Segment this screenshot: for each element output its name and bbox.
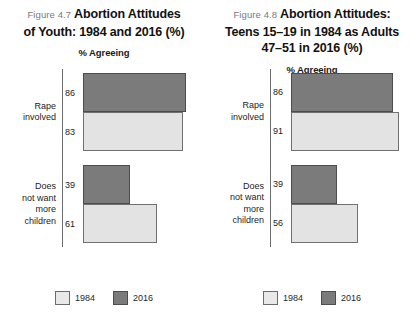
bar-row-2016: 39 xyxy=(271,165,337,204)
figure-4-8-category-label-no-more-children: Does not want more children xyxy=(208,165,264,243)
legend-swatch-2016-icon xyxy=(113,291,128,305)
figure-4-7-title-line1: Abortion Attitudes xyxy=(74,7,181,21)
bar-2016-no-more-children xyxy=(83,165,130,204)
bar-2016-rape-involved xyxy=(83,73,186,112)
category-line-1: Does xyxy=(35,181,56,193)
bar-row-1984: 61 xyxy=(63,204,157,243)
bar-1984-no-more-children xyxy=(83,204,157,243)
bar-value-1984: 56 xyxy=(271,218,291,228)
bar-2016-rape-involved xyxy=(291,73,393,112)
legend-item-1984: 1984 xyxy=(55,291,95,305)
category-line-1: Rape xyxy=(34,101,56,113)
figure-4-8-title-line3: 47–51 in 2016 (%) xyxy=(262,41,363,55)
legend-label-2016: 2016 xyxy=(341,293,361,303)
bar-row-1984: 83 xyxy=(63,112,183,151)
category-line-2: not want xyxy=(22,193,56,205)
bar-row-2016: 86 xyxy=(271,73,393,112)
legend-item-1984: 1984 xyxy=(263,291,303,305)
category-line-3: more xyxy=(35,204,56,216)
category-line-1: Does xyxy=(243,181,264,193)
category-line-1: Rape xyxy=(242,100,264,112)
legend-item-2016: 2016 xyxy=(321,291,361,305)
figure-4-7-category-label-rape-involved: Rape involved xyxy=(0,73,56,151)
figure-4-8-group-rape-involved: Rape involved 86 91 xyxy=(208,73,416,151)
bar-2016-no-more-children xyxy=(291,165,337,204)
figure-4-7-title-line2: of Youth: 1984 and 2016 (%) xyxy=(24,25,185,39)
figure-4-7-title: Figure 4.7 Abortion Attitudes of Youth: … xyxy=(6,6,202,40)
figure-4-8-group-no-more-children: Does not want more children 39 56 xyxy=(208,165,416,243)
category-line-2: involved xyxy=(23,112,56,124)
bar-value-2016: 86 xyxy=(63,88,83,98)
figure-4-7-plot: Rape involved 86 83 Does xyxy=(0,67,208,249)
bar-value-1984: 91 xyxy=(271,126,291,136)
figure-4-8-title-line1: Abortion Attitudes: xyxy=(280,7,391,21)
category-line-2: not want xyxy=(230,192,264,204)
two-figure-chart-page: Figure 4.7 Abortion Attitudes of Youth: … xyxy=(0,0,416,317)
figure-4-8-plot: Rape involved 86 91 Does xyxy=(208,67,416,249)
category-line-3: more xyxy=(243,204,264,216)
bar-value-2016: 39 xyxy=(63,180,83,190)
bar-1984-no-more-children xyxy=(291,204,358,243)
legend-label-1984: 1984 xyxy=(75,293,95,303)
legend-swatch-1984-icon xyxy=(263,291,278,305)
legend-item-2016: 2016 xyxy=(113,291,153,305)
legend-label-2016: 2016 xyxy=(133,293,153,303)
figure-4-8-legend: 1984 2016 xyxy=(208,291,416,305)
bar-row-1984: 56 xyxy=(271,204,358,243)
figure-4-8-title-block: Figure 4.8 Abortion Attitudes: Teens 15–… xyxy=(208,0,416,75)
bar-value-2016: 39 xyxy=(271,179,291,189)
bar-row-2016: 39 xyxy=(63,165,130,204)
figure-4-7-title-block: Figure 4.7 Abortion Attitudes of Youth: … xyxy=(0,0,208,58)
figure-4-8-title-line2: Teens 15–19 in 1984 as Adults xyxy=(225,25,399,39)
figure-4-8-bars-rape-involved: 86 91 xyxy=(271,73,416,151)
figure-4-7-bars-rape-involved: 86 83 xyxy=(63,73,208,151)
figure-4-7-category-label-no-more-children: Does not want more children xyxy=(0,165,56,243)
figure-4-7: Figure 4.7 Abortion Attitudes of Youth: … xyxy=(0,0,208,317)
figure-4-7-legend: 1984 2016 xyxy=(0,291,208,305)
figure-4-8-category-label-rape-involved: Rape involved xyxy=(208,73,264,151)
figure-4-8: Figure 4.8 Abortion Attitudes: Teens 15–… xyxy=(208,0,416,317)
bar-row-2016: 86 xyxy=(63,73,186,112)
figure-4-8-bars-no-more-children: 39 56 xyxy=(271,165,416,243)
figure-4-8-title: Figure 4.8 Abortion Attitudes: Teens 15–… xyxy=(214,6,410,57)
bar-1984-rape-involved xyxy=(83,112,183,151)
figure-4-7-subtitle: % Agreeing xyxy=(6,47,202,58)
figure-4-7-number: Figure 4.7 xyxy=(27,9,71,20)
legend-swatch-1984-icon xyxy=(55,291,70,305)
category-line-4: children xyxy=(232,215,264,227)
figure-4-8-number: Figure 4.8 xyxy=(233,9,277,20)
figure-4-7-group-no-more-children: Does not want more children 39 61 xyxy=(0,165,208,243)
bar-row-1984: 91 xyxy=(271,112,399,151)
category-line-4: children xyxy=(24,216,56,228)
figure-4-7-group-rape-involved: Rape involved 86 83 xyxy=(0,73,208,151)
legend-label-1984: 1984 xyxy=(283,293,303,303)
figure-4-7-bars-no-more-children: 39 61 xyxy=(63,165,208,243)
bar-value-1984: 83 xyxy=(63,127,83,137)
bar-value-2016: 86 xyxy=(271,87,291,97)
category-line-2: involved xyxy=(231,112,264,124)
legend-swatch-2016-icon xyxy=(321,291,336,305)
bar-1984-rape-involved xyxy=(291,112,399,151)
bar-value-1984: 61 xyxy=(63,219,83,229)
